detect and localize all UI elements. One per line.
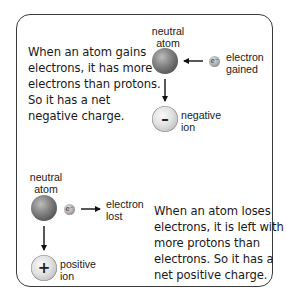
arrows	[0, 0, 286, 298]
